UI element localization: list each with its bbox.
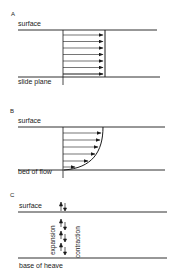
velocity-curve [64,127,103,170]
velocity-arrows [63,133,101,167]
heave-diagram [0,180,172,271]
velocity-arrows [63,35,103,74]
panel-c-heave: C surface base of heave expansion contra… [0,180,172,271]
slide-velocity-profile [0,0,172,90]
panel-b-flow: B surface bed of flow [0,90,172,180]
panel-a-slide: A surface slide plane [0,0,172,90]
heave-arrows [60,202,67,255]
flow-velocity-profile [0,90,172,180]
